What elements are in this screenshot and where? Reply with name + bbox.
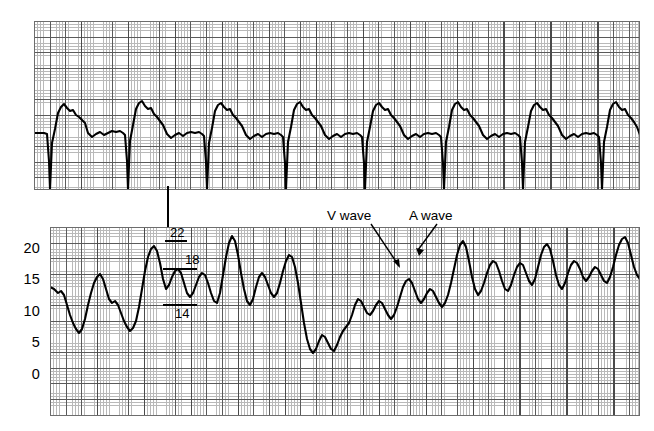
y-tick-10: 10 xyxy=(10,304,40,319)
y-tick-20: 20 xyxy=(10,241,40,256)
y-tick-15: 15 xyxy=(10,272,40,287)
y-tick-0: 0 xyxy=(10,367,40,382)
measurement-label-22: 22 xyxy=(170,226,185,239)
ecg-rhythm-strip-panel xyxy=(34,21,640,190)
a-wave-label: A wave xyxy=(409,209,453,223)
measurement-label-18: 18 xyxy=(185,253,200,266)
v-wave-label: V wave xyxy=(327,209,371,223)
measurement-tick-18 xyxy=(163,268,197,270)
pressure-waveform xyxy=(50,227,640,416)
atrial-pressure-panel xyxy=(50,227,640,416)
measurement-tick-22 xyxy=(165,240,187,242)
ecg-waveform xyxy=(34,21,640,190)
measurement-label-14: 14 xyxy=(175,307,190,320)
y-tick-5: 5 xyxy=(10,335,40,350)
